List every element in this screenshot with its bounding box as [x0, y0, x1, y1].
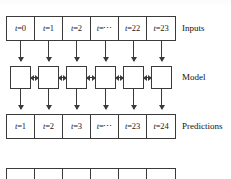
- label-inputs: Inputs: [182, 24, 205, 33]
- recurrent-connector: [31, 77, 38, 78]
- arrow-input-to-model: [76, 41, 77, 61]
- time-value: =1: [17, 122, 26, 131]
- label-predictions: Predictions: [182, 122, 223, 131]
- arrow-input-to-model: [105, 41, 106, 61]
- input-cell: t=2: [63, 17, 91, 40]
- cropped-cell: [119, 169, 147, 179]
- time-value: =2: [73, 24, 82, 33]
- time-value: =2: [45, 122, 54, 131]
- cropped-next-row: [6, 168, 176, 179]
- arrow-model-to-prediction: [161, 89, 162, 109]
- recurrent-connector: [144, 77, 151, 78]
- arrow-model-to-prediction: [133, 89, 134, 109]
- input-cell: t=1: [35, 17, 63, 40]
- model-cell: [66, 66, 87, 89]
- prediction-cell: t=1: [7, 115, 35, 138]
- arrow-model-to-prediction: [105, 89, 106, 109]
- time-value: =3: [73, 122, 82, 131]
- cropped-cell: [91, 169, 119, 179]
- prediction-cell-ellipsis: t=⋯: [91, 115, 119, 138]
- prediction-cell: t=24: [147, 115, 175, 138]
- arrow-input-to-model: [133, 41, 134, 61]
- model-cell: [10, 66, 31, 89]
- page-scan-artifact: [0, 0, 231, 6]
- prediction-cell: t=23: [119, 115, 147, 138]
- arrow-input-to-model: [20, 41, 21, 61]
- prediction-cell: t=2: [35, 115, 63, 138]
- time-value: =23: [127, 122, 140, 131]
- model-cell: [38, 66, 59, 89]
- model-cell: [95, 66, 116, 89]
- time-value: =22: [127, 24, 140, 33]
- arrow-model-to-prediction: [76, 89, 77, 109]
- inputs-row: t=0 t=1 t=2 t=⋯ t=22 t=23: [6, 16, 176, 41]
- predictions-row: t=1 t=2 t=3 t=⋯ t=23 t=24: [6, 114, 176, 139]
- recurrent-connector: [87, 77, 95, 78]
- label-model: Model: [182, 73, 206, 82]
- recurrent-connector: [116, 77, 123, 78]
- cropped-cell: [7, 169, 35, 179]
- input-cell-ellipsis: t=⋯: [91, 17, 119, 40]
- time-value: =1: [45, 24, 54, 33]
- model-cell: [151, 66, 172, 89]
- arrow-input-to-model: [48, 41, 49, 61]
- time-value: =23: [156, 24, 169, 33]
- cropped-cell: [35, 169, 63, 179]
- input-cell: t=0: [7, 17, 35, 40]
- cropped-cell: [147, 169, 175, 179]
- model-row: [6, 66, 176, 89]
- input-cell: t=23: [147, 17, 175, 40]
- time-value: =⋯: [99, 122, 112, 131]
- sequence-model-diagram: t=0 t=1 t=2 t=⋯ t=22 t=23: [0, 0, 231, 179]
- input-cell: t=22: [119, 17, 147, 40]
- recurrent-connector: [59, 77, 66, 78]
- arrow-model-to-prediction: [48, 89, 49, 109]
- arrow-input-to-model: [161, 41, 162, 61]
- time-value: =⋯: [99, 24, 112, 33]
- time-value: =24: [156, 122, 169, 131]
- arrow-model-to-prediction: [20, 89, 21, 109]
- model-cell: [123, 66, 144, 89]
- prediction-cell: t=3: [63, 115, 91, 138]
- time-value: =0: [17, 24, 26, 33]
- cropped-cell: [63, 169, 91, 179]
